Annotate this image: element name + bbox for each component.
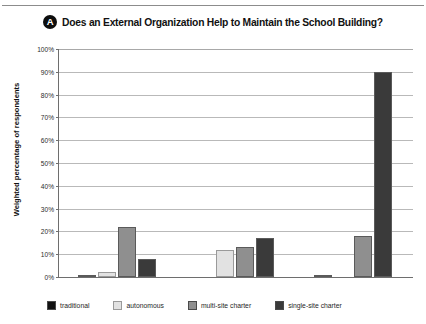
legend-item-autonomous[interactable]: autonomous	[113, 301, 163, 310]
bar-new-orleans-multi-site-charter	[354, 236, 372, 277]
bar-new-orleans-traditional	[314, 275, 332, 277]
bar-denver-multi-site-charter	[236, 247, 254, 277]
y-tick-label-0%: 0%	[14, 274, 54, 281]
legend-swatch-icon-traditional	[47, 301, 56, 310]
y-tick-label-10%: 10%	[14, 251, 54, 258]
legend-label: single-site charter	[288, 302, 342, 309]
legend-label: multi-site charter	[201, 302, 251, 309]
legend-label: traditional	[60, 302, 89, 309]
panel-title-row: A Does an External Organization Help to …	[0, 15, 426, 29]
page-title: Does an External Organization Help to Ma…	[62, 17, 383, 28]
bar-los-angeles-single-site-charter	[138, 259, 156, 277]
y-axis-title: Weighted percentage of respondents	[12, 50, 21, 250]
bar-los-angeles-autonomous	[98, 272, 116, 277]
legend-swatch-icon-multi-site-charter	[188, 301, 197, 310]
top-divider	[2, 5, 424, 6]
legend-label: autonomous	[126, 302, 163, 309]
legend-item-multi-site-charter[interactable]: multi-site charter	[188, 301, 251, 310]
bar-new-orleans-single-site-charter	[374, 72, 392, 277]
bar-denver-single-site-charter	[256, 238, 274, 277]
legend-item-traditional[interactable]: traditional	[47, 301, 89, 310]
bar-los-angeles-multi-site-charter	[118, 227, 136, 277]
legend-item-single-site-charter[interactable]: single-site charter	[275, 301, 342, 310]
legend-swatch-icon-single-site-charter	[275, 301, 284, 310]
bar-denver-autonomous	[216, 250, 234, 277]
chart-legend: traditionalautonomousmulti-site charters…	[47, 301, 366, 310]
bar-los-angeles-traditional	[78, 275, 96, 277]
bars-layer: Los AngelesDenverNew Orleans	[58, 49, 412, 277]
legend-swatch-icon-autonomous	[113, 301, 122, 310]
panel-badge-a: A	[43, 15, 57, 29]
